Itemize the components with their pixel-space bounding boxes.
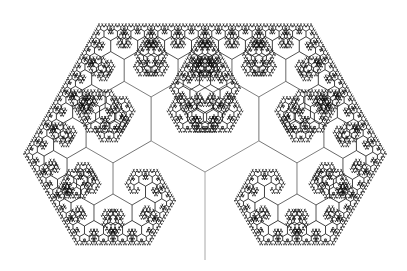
fractal-tree-svg [0,0,407,271]
fractal-figure [0,0,407,271]
